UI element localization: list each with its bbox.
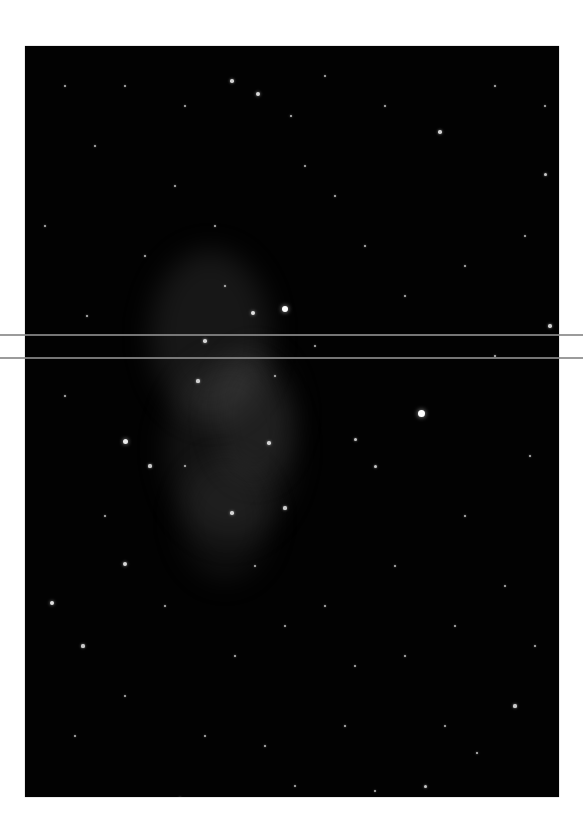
star bbox=[418, 410, 425, 417]
star bbox=[230, 79, 234, 83]
star bbox=[464, 265, 466, 267]
star bbox=[334, 195, 337, 198]
star bbox=[254, 565, 256, 567]
star bbox=[324, 75, 326, 77]
star bbox=[494, 85, 496, 87]
star bbox=[124, 85, 126, 87]
star bbox=[424, 785, 427, 788]
star bbox=[234, 655, 237, 658]
star bbox=[282, 306, 288, 312]
star bbox=[304, 165, 306, 167]
star bbox=[64, 395, 66, 397]
nebula-cloud bbox=[215, 350, 295, 480]
star bbox=[214, 225, 216, 227]
star bbox=[294, 785, 296, 787]
star bbox=[144, 255, 147, 258]
star bbox=[148, 464, 151, 467]
star bbox=[374, 465, 377, 468]
star bbox=[354, 665, 356, 667]
star bbox=[44, 225, 46, 227]
star bbox=[64, 85, 66, 87]
star bbox=[124, 695, 126, 697]
star bbox=[444, 725, 446, 727]
star bbox=[314, 345, 316, 347]
star bbox=[438, 130, 442, 134]
star bbox=[529, 455, 531, 457]
star bbox=[204, 735, 206, 737]
star bbox=[224, 285, 226, 287]
star bbox=[404, 655, 406, 657]
star bbox=[123, 562, 127, 566]
star bbox=[544, 173, 547, 176]
starfield-photo bbox=[25, 46, 559, 797]
star bbox=[324, 605, 326, 607]
star bbox=[544, 105, 546, 107]
star bbox=[504, 585, 506, 587]
star bbox=[524, 235, 526, 237]
star bbox=[548, 324, 551, 327]
star bbox=[86, 315, 89, 318]
star bbox=[94, 145, 96, 147]
star bbox=[203, 339, 207, 343]
star bbox=[267, 441, 271, 445]
star bbox=[184, 465, 186, 467]
star bbox=[384, 105, 386, 107]
star bbox=[464, 515, 467, 518]
nebula-cloud bbox=[165, 360, 295, 540]
star bbox=[256, 92, 260, 96]
star bbox=[264, 745, 267, 748]
star bbox=[513, 704, 516, 707]
scanline bbox=[0, 334, 583, 336]
star bbox=[251, 311, 255, 315]
star bbox=[404, 295, 406, 297]
star bbox=[230, 511, 234, 515]
star bbox=[344, 725, 347, 728]
star bbox=[283, 506, 286, 509]
star bbox=[374, 790, 376, 792]
star bbox=[74, 735, 76, 737]
star bbox=[364, 245, 367, 248]
star bbox=[164, 605, 166, 607]
star bbox=[394, 565, 396, 567]
star bbox=[174, 185, 176, 187]
star bbox=[196, 379, 199, 382]
scanline bbox=[0, 357, 583, 359]
star bbox=[184, 105, 186, 107]
nebula-cloud bbox=[180, 460, 270, 580]
star bbox=[476, 752, 479, 755]
star bbox=[123, 439, 128, 444]
star bbox=[534, 645, 536, 647]
star bbox=[274, 375, 276, 377]
star bbox=[50, 601, 54, 605]
star bbox=[104, 515, 106, 517]
star bbox=[81, 644, 84, 647]
star bbox=[454, 625, 456, 627]
star bbox=[290, 115, 293, 118]
star bbox=[284, 625, 286, 627]
star bbox=[354, 438, 357, 441]
